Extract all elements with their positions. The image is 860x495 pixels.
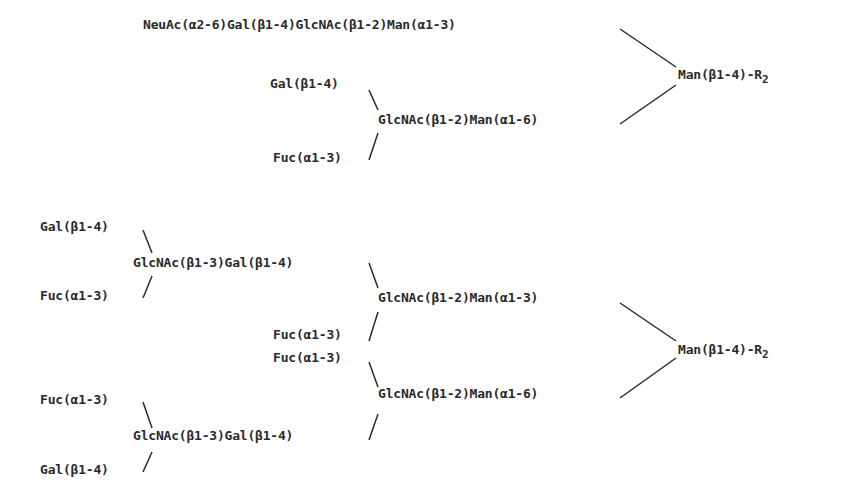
- bond-line: [143, 230, 152, 253]
- bond-line: [369, 414, 378, 440]
- s2-alpha3-arm: GlcNAc(β1-2)Man(α1-3): [378, 290, 538, 306]
- glycan-structures-diagram: NeuAc(α2-6)Gal(β1-4)GlcNAc(β1-2)Man(α1-3…: [0, 0, 860, 495]
- s1-core-mannose: Man(β1-4)-R2: [678, 67, 768, 88]
- s2-alpha6-arm: GlcNAc(β1-2)Man(α1-6): [378, 386, 538, 402]
- bond-line: [620, 29, 676, 67]
- s2-lower-outer-chain: GlcNAc(β1-3)Gal(β1-4): [133, 428, 293, 444]
- bond-line: [620, 303, 676, 341]
- s2-lower-outer-gal: Gal(β1-4): [40, 462, 109, 478]
- bond-line: [620, 85, 676, 124]
- bond-line: [369, 90, 378, 110]
- s1-alpha3-arm: NeuAc(α2-6)Gal(β1-4)GlcNAc(β1-2)Man(α1-3…: [143, 17, 456, 33]
- bond-line: [620, 358, 676, 398]
- core-label: Man(β1-4)-R: [678, 342, 762, 357]
- bond-line: [143, 452, 152, 472]
- s2-upper-outer-gal: Gal(β1-4): [40, 219, 109, 235]
- bond-line: [143, 276, 152, 298]
- s1-alpha6-fuc: Fuc(α1-3): [273, 150, 342, 166]
- core-label: Man(β1-4)-R: [678, 67, 762, 82]
- core-subscript: 2: [762, 348, 768, 361]
- s2-upper-fuc: Fuc(α1-3): [273, 327, 342, 343]
- bond-line: [369, 133, 378, 160]
- bond-line: [369, 263, 378, 288]
- bond-line: [369, 312, 378, 341]
- s2-upper-outer-fuc: Fuc(α1-3): [40, 288, 109, 304]
- core-subscript: 2: [762, 73, 768, 86]
- s2-upper-outer-chain: GlcNAc(β1-3)Gal(β1-4): [133, 255, 293, 271]
- bond-line: [143, 402, 152, 428]
- s2-core-mannose: Man(β1-4)-R2: [678, 342, 768, 363]
- s1-alpha6-gal: Gal(β1-4): [270, 76, 339, 92]
- s1-alpha6-arm: GlcNAc(β1-2)Man(α1-6): [378, 112, 538, 128]
- bond-line: [369, 362, 378, 387]
- s2-lower-fuc: Fuc(α1-3): [273, 350, 342, 366]
- s2-lower-outer-fuc: Fuc(α1-3): [40, 392, 109, 408]
